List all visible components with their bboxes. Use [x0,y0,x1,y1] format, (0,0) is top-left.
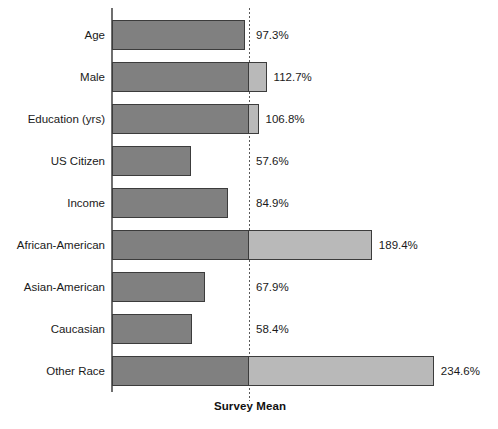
survey-mean-bar-chart: Age97.3%Male112.7%Education (yrs)106.8%U… [0,0,498,429]
bar-value-label: 57.6% [256,146,289,176]
bar [112,146,191,176]
bar-row: Asian-American67.9% [0,272,498,302]
bar-segment-below-reference [112,62,249,92]
category-label: Male [80,62,105,92]
category-label: Age [85,20,105,50]
bar-value-label: 234.6% [441,356,480,386]
bar [112,356,434,386]
bar [112,104,259,134]
bar [112,230,372,260]
bar-segment-below-reference [112,146,191,176]
bar-value-label: 106.8% [266,104,305,134]
x-axis-title-label: Survey Mean [214,400,286,412]
bar-segment-above-reference [249,104,258,134]
bar-row: Income84.9% [0,188,498,218]
x-axis-title: Survey Mean [0,400,498,412]
bar-value-label: 58.4% [256,314,289,344]
bar [112,188,228,218]
bar-segment-below-reference [112,272,205,302]
category-label: African-American [17,230,105,260]
bar-segment-below-reference [112,314,192,344]
category-label: Caucasian [51,314,105,344]
bar-segment-below-reference [112,104,249,134]
bar-segment-below-reference [112,356,249,386]
bar-value-label: 189.4% [379,230,418,260]
bar-segment-above-reference [249,356,434,386]
category-label: Education (yrs) [28,104,105,134]
bar [112,272,205,302]
bar-value-label: 84.9% [256,188,289,218]
category-label: Asian-American [24,272,105,302]
bar-segment-below-reference [112,188,228,218]
bar-value-label: 97.3% [256,20,289,50]
bar-value-label: 67.9% [256,272,289,302]
bar-row: Other Race234.6% [0,356,498,386]
bar-row: Education (yrs)106.8% [0,104,498,134]
bar-row: Male112.7% [0,62,498,92]
bar [112,62,267,92]
bar-row: Caucasian58.4% [0,314,498,344]
category-label: Other Race [46,356,105,386]
category-label: Income [67,188,105,218]
bar [112,20,245,50]
bar-segment-above-reference [249,62,266,92]
bar-row: African-American189.4% [0,230,498,260]
bar [112,314,192,344]
bar-segment-above-reference [249,230,372,260]
bar-segment-below-reference [112,230,249,260]
bar-segment-below-reference [112,20,245,50]
bar-row: US Citizen57.6% [0,146,498,176]
bar-value-label: 112.7% [274,62,312,92]
category-label: US Citizen [51,146,105,176]
bar-row: Age97.3% [0,20,498,50]
